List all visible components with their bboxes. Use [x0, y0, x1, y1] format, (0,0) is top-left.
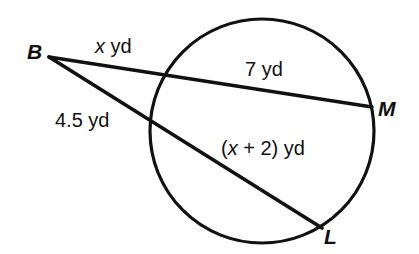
- measure-paren-open: (: [221, 137, 228, 159]
- secant-b-to-m: [49, 57, 372, 107]
- measure-variable-x2: x: [228, 137, 238, 159]
- circle-shape: [150, 19, 374, 243]
- point-label-l: L: [324, 226, 337, 247]
- vertex-label-b: B: [27, 41, 42, 62]
- measure-label-x: x yd: [95, 36, 132, 56]
- measure-label-x-plus-two: (x + 2) yd: [221, 138, 305, 158]
- measure-expression-rest: + 2) yd: [238, 137, 305, 159]
- point-label-m: M: [378, 98, 396, 119]
- measure-unit-x: yd: [111, 35, 132, 57]
- measure-variable-x: x: [95, 35, 105, 57]
- geometry-figure: B M L x yd 7 yd 4.5 yd (x + 2) yd: [0, 0, 419, 254]
- measure-label-four-point-five: 4.5 yd: [55, 110, 109, 130]
- measure-label-seven: 7 yd: [245, 59, 283, 79]
